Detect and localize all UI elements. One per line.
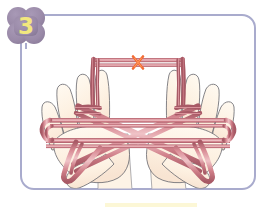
step-number: 3 — [2, 3, 50, 49]
bottom-accent-strip — [105, 203, 197, 207]
right-hand — [146, 70, 234, 188]
step-badge: 3 — [2, 3, 50, 49]
illustration-canvas: 3 — [0, 0, 274, 208]
string-figure-illustration — [20, 14, 256, 190]
left-hand — [42, 70, 130, 188]
